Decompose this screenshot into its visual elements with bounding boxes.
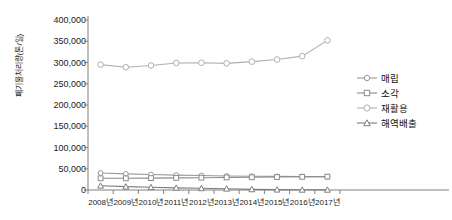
series-line xyxy=(101,173,328,177)
legend-item-해역배출[interactable]: 해역배출 xyxy=(356,115,417,130)
series-line xyxy=(101,186,328,190)
legend-label: 소각 xyxy=(381,86,399,100)
data-point-marker-circle xyxy=(274,57,280,63)
data-point-marker-square xyxy=(300,174,305,179)
data-point-marker-circle xyxy=(123,64,129,70)
legend-item-소각[interactable]: 소각 xyxy=(356,85,417,100)
waste-treatment-line-chart: 400,000350,000300,000250,000200,000150,0… xyxy=(0,0,452,220)
x-axis-tick-label: 2011년 xyxy=(164,196,188,207)
legend-label: 재활용 xyxy=(381,101,408,115)
data-point-marker-square xyxy=(224,175,229,180)
data-point-marker-circle xyxy=(199,60,205,66)
data-point-marker-square xyxy=(325,174,330,179)
data-point-marker-circle xyxy=(299,53,305,59)
x-axis-tick-label: 2008년 xyxy=(88,196,113,207)
data-point-marker-square xyxy=(199,175,204,180)
legend-marker-circle-icon xyxy=(356,102,378,114)
legend-item-재활용[interactable]: 재활용 xyxy=(356,100,417,115)
data-point-marker-circle xyxy=(98,62,104,68)
data-point-marker-square xyxy=(123,176,128,181)
x-axis-tick-label: 2016년 xyxy=(290,196,315,207)
data-point-marker-circle xyxy=(249,59,255,65)
legend-item-매립[interactable]: 매립 xyxy=(356,70,417,85)
chart-legend: 매립소각재활용해역배출 xyxy=(356,70,417,130)
data-point-marker-circle xyxy=(224,61,230,67)
x-axis-tick-label: 2014년 xyxy=(239,196,264,207)
data-point-marker-square xyxy=(98,176,103,181)
data-point-marker-circle xyxy=(325,38,331,44)
legend-marker-circle-icon xyxy=(356,72,378,84)
x-axis-tick-label: 2013년 xyxy=(214,196,239,207)
x-axis-tick-label: 2012년 xyxy=(189,196,214,207)
x-axis-tick-label: 2010년 xyxy=(139,196,164,207)
x-axis-tick-label: 2015년 xyxy=(265,196,290,207)
series-재활용 xyxy=(98,38,330,70)
data-point-marker-square xyxy=(249,175,254,180)
legend-label: 해역배출 xyxy=(381,116,417,130)
data-point-marker-square xyxy=(275,175,280,180)
legend-marker-square-icon xyxy=(356,87,378,99)
data-point-marker-square xyxy=(364,90,369,95)
data-point-marker-square xyxy=(149,176,154,181)
x-axis-tick-label: 2017년 xyxy=(315,196,340,207)
data-point-marker-circle xyxy=(364,104,370,110)
data-point-marker-circle xyxy=(173,60,179,66)
data-point-marker-circle xyxy=(364,75,369,80)
data-point-marker-square xyxy=(174,175,179,180)
data-point-marker-circle xyxy=(98,171,103,176)
legend-marker-triangle-icon xyxy=(356,117,378,129)
legend-label: 매립 xyxy=(381,71,399,85)
series-line xyxy=(101,40,328,67)
data-point-marker-circle xyxy=(148,63,154,69)
series-line xyxy=(101,177,328,179)
x-axis-tick-label: 2009년 xyxy=(113,196,138,207)
series-소각 xyxy=(98,174,330,181)
